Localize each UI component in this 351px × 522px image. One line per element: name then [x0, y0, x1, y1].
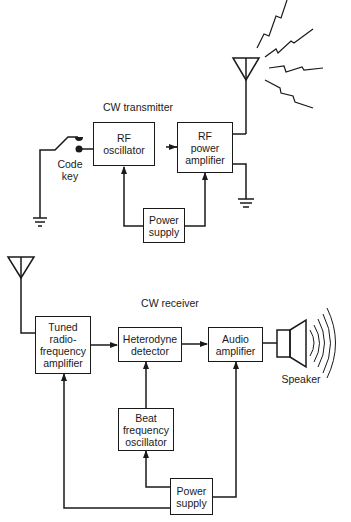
speaker-label: Speaker — [276, 373, 326, 385]
radio-waves-icon — [257, 0, 323, 108]
diagram-wiring — [0, 0, 351, 522]
code-key-label: Code key — [52, 158, 88, 182]
rx-ps-line2: supply — [176, 497, 206, 509]
rx-ps-line1: Power — [176, 485, 206, 497]
receive-antenna-icon — [8, 257, 35, 333]
rf-oscillator-line1: RF — [103, 132, 144, 144]
key-contact-top-icon — [75, 137, 83, 141]
trf-line2: radio- — [40, 333, 86, 345]
het-line2: detector — [123, 345, 177, 357]
transmit-antenna-icon — [233, 58, 259, 134]
het-line1: Heterodyne — [123, 333, 177, 345]
trf-line4: amplifier — [40, 357, 86, 369]
rf-pa-line1: RF — [185, 130, 225, 142]
trf-line1: Tuned — [40, 321, 86, 333]
audio-amplifier-block: Audioamplifier — [208, 327, 263, 362]
code-key-line2: key — [52, 170, 88, 182]
key-contact-icon — [76, 146, 83, 153]
bfo-block: Beatfrequencyoscillator — [118, 408, 174, 451]
ground-icon-tx-right — [233, 164, 254, 207]
rf-oscillator-line2: oscillator — [103, 144, 144, 156]
transmitter-title: CW transmitter — [93, 101, 183, 113]
rf-pa-line2: power — [185, 142, 225, 154]
rf-oscillator-block: RFoscillator — [93, 122, 155, 166]
receiver-title: CW receiver — [130, 297, 210, 309]
ground-icon-tx-left — [33, 218, 47, 226]
tx-ps-line2: supply — [149, 226, 179, 238]
code-key-line1: Code — [52, 158, 88, 170]
heterodyne-detector-block: Heterodynedetector — [118, 327, 182, 362]
tx-power-supply-block: Powersupply — [143, 208, 185, 243]
tuned-rf-amplifier-block: Tunedradio-frequencyamplifier — [35, 316, 91, 374]
rf-power-amplifier-block: RFpoweramplifier — [177, 122, 233, 173]
bfo-line1: Beat — [123, 412, 169, 424]
bfo-line2: frequency — [123, 424, 169, 436]
audio-line1: Audio — [216, 333, 256, 345]
speaker-icon — [277, 320, 306, 367]
trf-line3: frequency — [40, 345, 86, 357]
bfo-line3: oscillator — [123, 436, 169, 448]
tx-ps-line1: Power — [149, 214, 179, 226]
rx-power-supply-block: Powersupply — [170, 478, 213, 515]
audio-line2: amplifier — [216, 345, 256, 357]
sound-waves-icon — [310, 308, 336, 378]
rf-pa-line3: amplifier — [185, 154, 225, 166]
